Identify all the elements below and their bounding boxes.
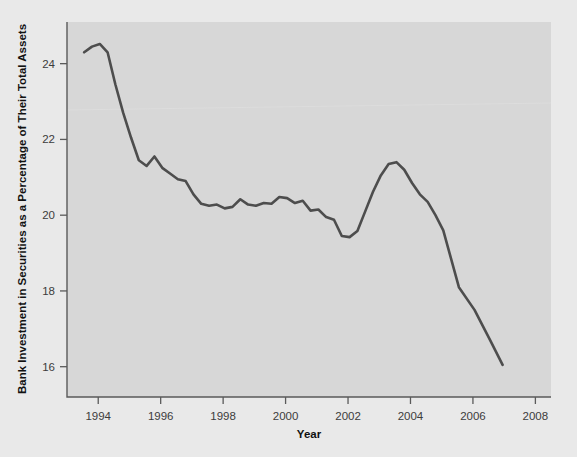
y-tick-label: 20: [42, 209, 55, 221]
y-tick-label: 18: [42, 285, 55, 297]
chart-figure: 1618202224 19941996199820002002200420062…: [0, 0, 577, 457]
x-tick-label: 2000: [273, 410, 299, 422]
x-tick-label: 2008: [523, 410, 549, 422]
x-tick-label: 1998: [210, 410, 236, 422]
x-tick-label: 2006: [460, 410, 486, 422]
x-tick-label: 1994: [85, 410, 111, 422]
x-axis-ticks: 19941996199820002002200420062008: [85, 397, 548, 422]
y-tick-label: 24: [42, 58, 55, 70]
y-tick-label: 16: [42, 361, 55, 373]
y-tick-label: 22: [42, 133, 55, 145]
x-tick-label: 1996: [148, 410, 174, 422]
x-axis-title: Year: [297, 428, 322, 440]
y-axis-ticks: 1618202224: [42, 58, 67, 373]
y-axis-title: Bank Investment in Securities as a Perce…: [16, 24, 28, 394]
x-tick-label: 2002: [335, 410, 361, 422]
line-chart: 1618202224 19941996199820002002200420062…: [0, 0, 577, 457]
x-tick-label: 2004: [398, 410, 424, 422]
